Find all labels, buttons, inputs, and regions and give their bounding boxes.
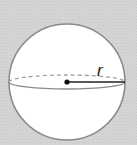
diagram-canvas: r bbox=[0, 0, 137, 145]
center-point bbox=[64, 79, 69, 84]
sphere-diagram: r bbox=[0, 0, 137, 145]
